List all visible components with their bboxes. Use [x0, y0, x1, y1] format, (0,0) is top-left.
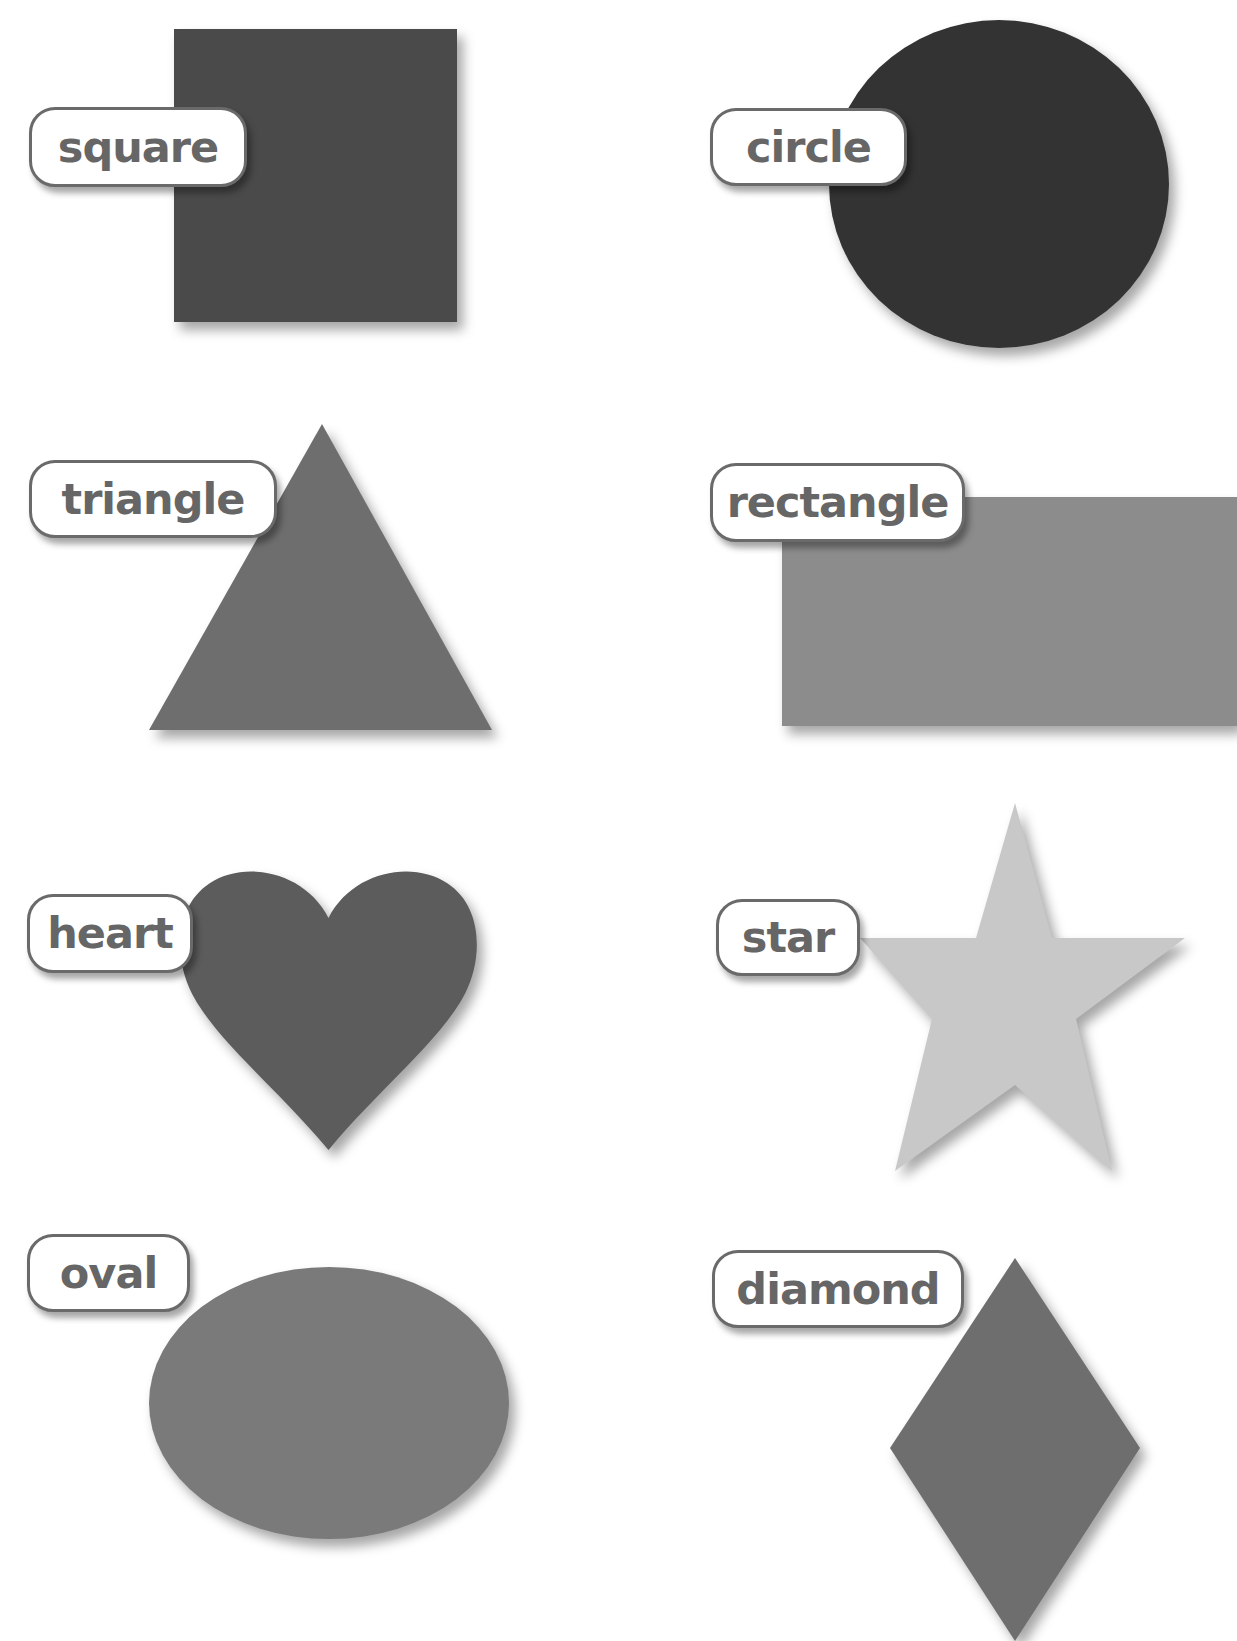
label-oval: oval	[27, 1234, 190, 1312]
heart-shape	[180, 860, 477, 1150]
star-fill	[860, 803, 1185, 1171]
label-square: square	[29, 107, 247, 187]
label-circle: circle	[710, 108, 907, 186]
oval-fill	[149, 1267, 509, 1539]
label-triangle: triangle	[29, 460, 277, 538]
label-diamond: diamond	[712, 1250, 964, 1328]
label-heart: heart	[27, 894, 193, 973]
heart-fill	[180, 872, 477, 1150]
star-shape	[860, 803, 1185, 1171]
label-star: star	[716, 899, 860, 976]
label-rectangle: rectangle	[710, 463, 965, 542]
oval-shape	[148, 1266, 510, 1540]
